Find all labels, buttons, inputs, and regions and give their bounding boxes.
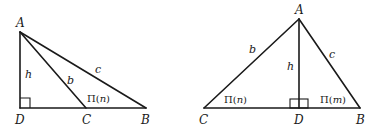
edge-AB	[20, 32, 146, 108]
right-angle-marker	[20, 98, 30, 108]
angle-label-C: Π(n)	[224, 94, 247, 105]
vertex-label-A: A	[15, 16, 25, 30]
vertex-label-A: A	[294, 3, 304, 17]
angle-label-C: Π(n)	[87, 93, 110, 104]
side-label-h: h	[287, 60, 294, 73]
vertex-label-B: B	[355, 113, 365, 127]
vertex-label-C: C	[199, 113, 208, 127]
side-label-h: h	[25, 68, 32, 81]
right-figure: A C D B b h c Π(n) Π(m)	[199, 3, 365, 127]
side-label-b: b	[67, 74, 74, 87]
side-label-b: b	[249, 43, 256, 56]
angle-label-B: Π(m)	[320, 94, 346, 105]
side-label-c: c	[95, 63, 101, 76]
vertex-label-D: D	[14, 113, 25, 127]
left-figure: A D C B h b c Π(n)	[14, 16, 150, 127]
side-label-c: c	[329, 48, 335, 61]
vertex-label-B: B	[140, 113, 150, 127]
vertex-label-C: C	[82, 113, 91, 127]
edge-AC	[204, 19, 299, 108]
triangle-diagrams: A D C B h b c Π(n) A C D B b h c Π(n) Π(…	[0, 0, 382, 132]
vertex-label-D: D	[293, 113, 304, 127]
